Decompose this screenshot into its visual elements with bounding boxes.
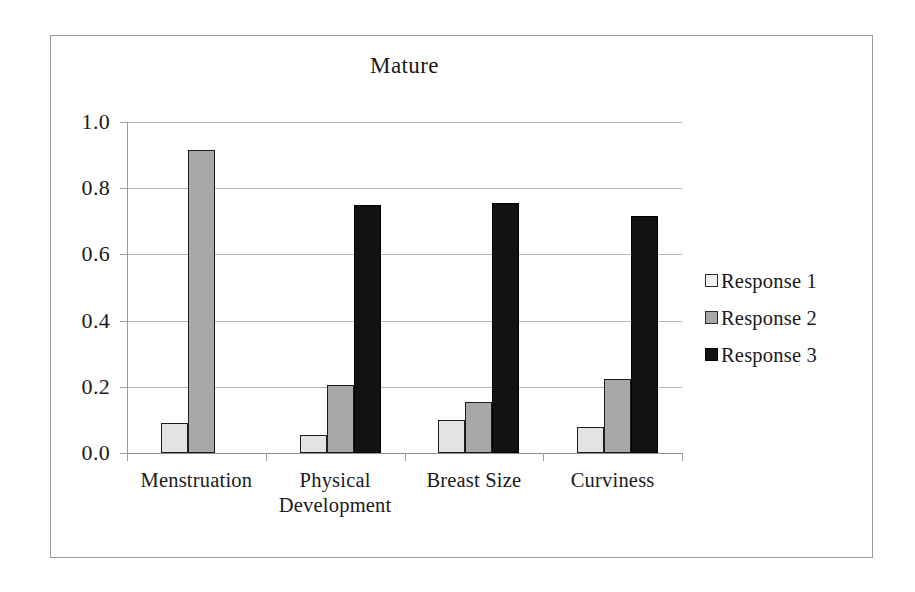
legend-item-label: Response 3 (721, 344, 817, 366)
legend-item[interactable]: Response 3 (705, 336, 865, 373)
legend-swatch-icon (705, 274, 718, 287)
y-axis-tick-label: 1.0 (48, 111, 110, 133)
bar[interactable] (604, 379, 631, 453)
chart-legend: Response 1Response 2Response 3 (705, 262, 865, 373)
y-axis-tick (120, 387, 127, 388)
chart-title: Mature (127, 52, 682, 80)
bar-group (543, 122, 682, 453)
x-axis-tick (405, 453, 406, 461)
x-axis-tick (543, 453, 544, 461)
legend-item-label: Response 2 (721, 307, 817, 329)
bar-group (127, 122, 266, 453)
bar[interactable] (354, 205, 381, 453)
legend-item[interactable]: Response 2 (705, 299, 865, 336)
y-axis-spine (127, 122, 128, 453)
y-axis-tick-label: 0.2 (48, 376, 110, 398)
bar[interactable] (492, 203, 519, 453)
category-label-line: Development (248, 493, 423, 518)
x-axis-tick (127, 453, 128, 461)
y-axis-tick-label: 0.6 (48, 243, 110, 265)
chart-figure: Mature 1.00.80.60.40.20.0 MenstruationPh… (0, 0, 915, 592)
y-axis-tick-label: 0.4 (48, 310, 110, 332)
category-label-line: Curviness (525, 468, 700, 493)
y-axis-tick-label: 0.8 (48, 177, 110, 199)
y-axis-tick (120, 453, 127, 454)
bar[interactable] (465, 402, 492, 453)
y-axis-tick (120, 321, 127, 322)
x-axis-tick (266, 453, 267, 461)
bar[interactable] (438, 420, 465, 453)
bar[interactable] (631, 216, 658, 453)
bar[interactable] (300, 435, 327, 453)
bar[interactable] (577, 427, 604, 453)
bar[interactable] (161, 423, 188, 453)
bar-group (266, 122, 405, 453)
y-axis-tick-label: 0.0 (48, 442, 110, 464)
bar-group (405, 122, 544, 453)
legend-item[interactable]: Response 1 (705, 262, 865, 299)
category-label: Curviness (525, 468, 700, 493)
y-axis-tick (120, 188, 127, 189)
legend-swatch-icon (705, 348, 718, 361)
x-axis-tick (682, 453, 683, 461)
y-axis-tick (120, 254, 127, 255)
legend-item-label: Response 1 (721, 270, 817, 292)
bar[interactable] (188, 150, 215, 453)
bar[interactable] (327, 385, 354, 453)
plot-area (127, 122, 682, 453)
y-axis-tick (120, 122, 127, 123)
legend-swatch-icon (705, 311, 718, 324)
